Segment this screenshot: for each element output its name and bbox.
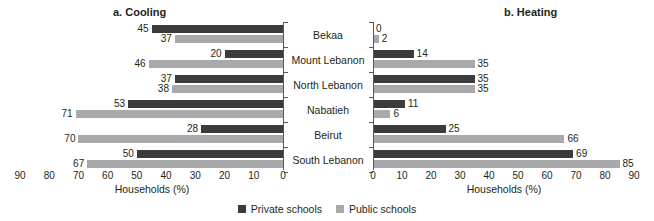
- bar-group-beirut: 2870: [0, 122, 283, 147]
- bar-group-mount-lebanon: 1435: [373, 47, 635, 72]
- bar-private-bekaa: [152, 25, 284, 33]
- bar-private-nabatieh: [128, 100, 283, 108]
- value-label-public-beirut: 70: [64, 134, 75, 144]
- axis-tickmark: [284, 47, 288, 48]
- legend-swatch-public-icon: [336, 205, 344, 213]
- bar-public-nabatieh: [373, 110, 390, 118]
- tick-cooling-80: 80: [44, 170, 55, 181]
- axis-tickmark: [369, 47, 373, 48]
- chart-legend: Private schoolsPublic schools: [0, 200, 654, 218]
- legend-swatch-private-icon: [238, 205, 246, 213]
- value-label-private-bekaa: 45: [137, 24, 148, 34]
- bar-group-nabatieh: 5371: [0, 97, 283, 122]
- tick-cooling-70: 70: [73, 170, 84, 181]
- value-label-public-mount-lebanon: 46: [134, 59, 145, 69]
- tick-heating-0: 0: [370, 170, 376, 181]
- category-label-north-lebanon: North Lebanon: [287, 72, 369, 97]
- value-label-public-south-lebanon: 85: [623, 159, 634, 169]
- bar-public-south-lebanon: [373, 160, 620, 168]
- axis-tickmark: [284, 22, 288, 23]
- bar-public-mount-lebanon: [373, 60, 475, 68]
- tick-heating-90: 90: [628, 170, 639, 181]
- tick-heating-10: 10: [396, 170, 407, 181]
- tick-heating-30: 30: [454, 170, 465, 181]
- plot-area-heating: 021435353511625666985: [373, 22, 635, 170]
- legend-item-public[interactable]: Public schools: [336, 203, 416, 215]
- value-label-public-bekaa: 37: [161, 34, 172, 44]
- bar-private-beirut: [373, 125, 446, 133]
- value-label-private-nabatieh: 53: [114, 99, 125, 109]
- axis-tickmark: [369, 72, 373, 73]
- bar-group-south-lebanon: 5067: [0, 147, 283, 172]
- bar-public-north-lebanon: [172, 85, 283, 93]
- tick-cooling-40: 40: [161, 170, 172, 181]
- value-label-private-nabatieh: 11: [408, 99, 418, 109]
- bar-public-nabatieh: [76, 110, 283, 118]
- cropped-caption-sliver: [30, 0, 550, 2]
- category-label-beirut: Beirut: [287, 122, 369, 147]
- value-label-private-mount-lebanon: 20: [210, 49, 221, 59]
- tick-heating-80: 80: [599, 170, 610, 181]
- axis-tickmark: [369, 147, 373, 148]
- bar-public-bekaa: [175, 35, 283, 43]
- axis-tickmark: [369, 122, 373, 123]
- category-label-column: BekaaMount LebanonNorth LebanonNabatiehB…: [287, 22, 369, 170]
- tick-cooling-10: 10: [248, 170, 259, 181]
- bar-private-north-lebanon: [373, 75, 475, 83]
- value-label-private-beirut: 28: [187, 124, 198, 134]
- category-label-nabatieh: Nabatieh: [287, 97, 369, 122]
- bar-private-nabatieh: [373, 100, 405, 108]
- panel-title-cooling: a. Cooling: [113, 6, 166, 18]
- tick-heating-60: 60: [541, 170, 552, 181]
- bar-group-beirut: 2566: [373, 122, 635, 147]
- tick-cooling-0: 0: [280, 170, 286, 181]
- tick-cooling-20: 20: [219, 170, 230, 181]
- tick-cooling-50: 50: [131, 170, 142, 181]
- figure-dual-bar-chart: a. Cooling b. Heating 453720463738537128…: [0, 0, 654, 221]
- value-label-private-south-lebanon: 69: [576, 149, 587, 159]
- bar-group-bekaa: 4537: [0, 22, 283, 47]
- tick-heating-50: 50: [512, 170, 523, 181]
- bar-private-south-lebanon: [373, 150, 573, 158]
- tick-cooling-30: 30: [190, 170, 201, 181]
- axis-vertical-heating: [373, 22, 374, 170]
- tick-cooling-90: 90: [14, 170, 25, 181]
- plot-area-cooling: 453720463738537128705067: [0, 22, 283, 170]
- bar-group-north-lebanon: 3535: [373, 72, 635, 97]
- axis-tickmark: [284, 97, 288, 98]
- bar-public-mount-lebanon: [149, 60, 283, 68]
- value-label-public-north-lebanon: 38: [158, 84, 169, 94]
- legend-item-private[interactable]: Private schools: [238, 203, 322, 215]
- value-label-public-bekaa: 2: [382, 34, 388, 44]
- value-label-private-beirut: 25: [449, 124, 460, 134]
- bar-group-south-lebanon: 6985: [373, 147, 635, 172]
- x-axis-title-heating: Households (%): [467, 183, 542, 195]
- value-label-public-beirut: 66: [567, 134, 578, 144]
- bar-group-bekaa: 02: [373, 22, 635, 47]
- bar-public-beirut: [373, 135, 564, 143]
- tick-heating-70: 70: [570, 170, 581, 181]
- legend-label-private: Private schools: [251, 203, 322, 215]
- bar-private-mount-lebanon: [373, 50, 414, 58]
- value-label-public-mount-lebanon: 35: [478, 59, 489, 69]
- axis-tickmark: [284, 122, 288, 123]
- axis-tickmark: [369, 22, 373, 23]
- legend-label-public: Public schools: [349, 203, 416, 215]
- value-label-public-south-lebanon: 67: [73, 159, 84, 169]
- tick-heating-20: 20: [425, 170, 436, 181]
- bar-group-north-lebanon: 3738: [0, 72, 283, 97]
- axis-tickmark: [369, 97, 373, 98]
- tick-cooling-60: 60: [102, 170, 113, 181]
- value-label-private-south-lebanon: 50: [123, 149, 134, 159]
- bar-private-south-lebanon: [137, 150, 283, 158]
- value-label-public-nabatieh: 6: [393, 109, 399, 119]
- bar-public-north-lebanon: [373, 85, 475, 93]
- value-label-public-nabatieh: 71: [61, 109, 72, 119]
- bar-group-nabatieh: 116: [373, 97, 635, 122]
- bar-public-south-lebanon: [87, 160, 283, 168]
- bar-private-north-lebanon: [175, 75, 283, 83]
- axis-tickmark: [284, 72, 288, 73]
- bar-group-mount-lebanon: 2046: [0, 47, 283, 72]
- axis-tickmark: [284, 147, 288, 148]
- category-label-mount-lebanon: Mount Lebanon: [287, 47, 369, 72]
